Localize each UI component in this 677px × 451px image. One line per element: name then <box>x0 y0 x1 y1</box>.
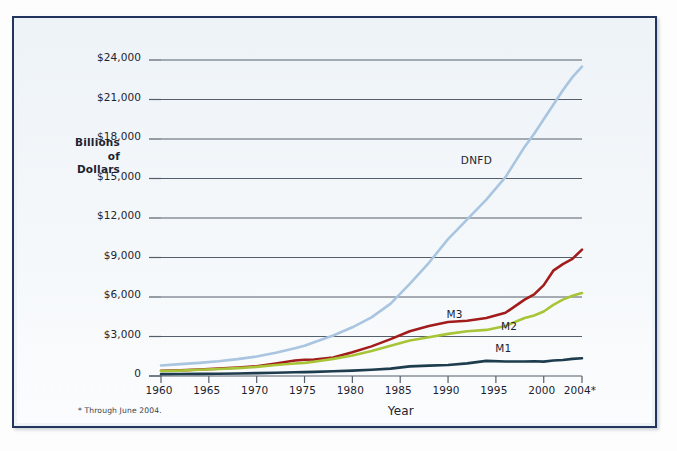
money-supply-line-chart <box>14 18 655 426</box>
y-tick-label: $18,000 <box>29 130 141 142</box>
y-tick-label: $3,000 <box>29 328 141 340</box>
y-tick-label: $6,000 <box>29 288 141 300</box>
series-line-m3 <box>161 250 582 371</box>
x-tick-label: 2004* <box>555 384 605 396</box>
x-tick-label: 1995 <box>469 384 519 396</box>
series-label-m2: M2 <box>501 320 517 332</box>
series-label-m3: M3 <box>446 308 462 320</box>
chart-page: Billions of Dollars 0$3,000$6,000$9,000$… <box>0 0 677 451</box>
y-tick-label: 0 <box>29 367 141 379</box>
y-tick-label: $12,000 <box>29 209 141 221</box>
series-label-m1: M1 <box>495 342 511 354</box>
y-tick-label: $9,000 <box>29 249 141 261</box>
y-tick-label: $15,000 <box>29 170 141 182</box>
x-axis-title: Year <box>388 404 414 418</box>
series-label-dnfd: DNFD <box>461 154 492 166</box>
footnote: * Through June 2004. <box>78 406 162 415</box>
y-axis-title-line2: of <box>44 150 120 164</box>
x-tick-label: 1990 <box>421 384 471 396</box>
y-tick-label: $21,000 <box>29 91 141 103</box>
x-tick-label: 1960 <box>134 384 184 396</box>
y-tick-label: $24,000 <box>29 51 141 63</box>
x-tick-label: 1980 <box>325 384 375 396</box>
x-tick-label: 1965 <box>182 384 232 396</box>
x-tick-label: 1975 <box>278 384 328 396</box>
x-tick-label: 1985 <box>373 384 423 396</box>
x-tick-label: 1970 <box>230 384 280 396</box>
